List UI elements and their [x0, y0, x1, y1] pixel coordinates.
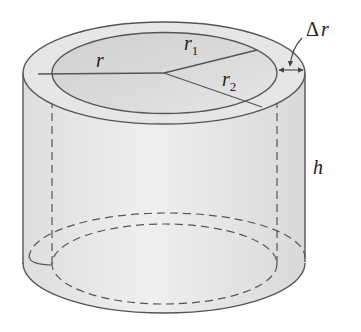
- label-r: r: [96, 49, 104, 71]
- cylindrical-shell-diagram: r r1 r2 Δr h: [0, 0, 361, 332]
- label-delta-r: Δr: [306, 18, 329, 40]
- label-h: h: [313, 156, 323, 178]
